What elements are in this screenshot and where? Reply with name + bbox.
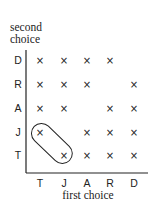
x-mark-icon: × (130, 127, 138, 138)
x-mark-icon: × (83, 79, 91, 90)
x-mark-icon: × (60, 150, 68, 161)
x-mark-icon: × (60, 103, 68, 114)
y-tick-label: D (14, 54, 22, 66)
y-tick-label: T (15, 149, 22, 161)
x-mark-icon: × (36, 103, 44, 114)
x-mark-icon: × (83, 150, 91, 161)
y-tick-label: R (14, 78, 22, 90)
y-axis-label-line2: choice (10, 33, 40, 45)
x-tick-label: D (130, 177, 138, 189)
x-mark-icon: × (106, 150, 114, 161)
x-mark-icon: × (60, 55, 68, 66)
x-mark-icon: × (130, 103, 138, 114)
x-mark-icon: × (83, 127, 91, 138)
x-mark-icon: × (130, 79, 138, 90)
x-tick-label: A (83, 177, 90, 189)
x-mark-icon: × (106, 127, 114, 138)
y-tick-label: J (15, 126, 20, 138)
x-mark-icon: × (130, 150, 138, 161)
x-mark-icon: × (106, 103, 114, 114)
choice-grid-diagram: second choice DRAJT TJARD ××××××××××××××… (0, 0, 154, 206)
x-tick-label: R (106, 177, 114, 189)
x-tick-label: T (37, 177, 44, 189)
highlight-outline (27, 119, 76, 167)
x-mark-icon: × (60, 79, 68, 90)
x-mark-icon: × (36, 55, 44, 66)
x-tick-label: J (61, 177, 66, 189)
x-mark-icon: × (36, 127, 44, 138)
grid-marks: ×××××××××××××××××××× (36, 55, 138, 161)
x-axis-label: first choice (62, 189, 113, 201)
x-axis-ticks: TJARD (37, 177, 138, 189)
x-mark-icon: × (83, 55, 91, 66)
x-mark-icon: × (36, 79, 44, 90)
y-tick-label: A (14, 102, 21, 114)
y-axis-ticks: DRAJT (14, 54, 22, 161)
x-mark-icon: × (106, 55, 114, 66)
y-axis-label-line1: second (10, 21, 42, 33)
